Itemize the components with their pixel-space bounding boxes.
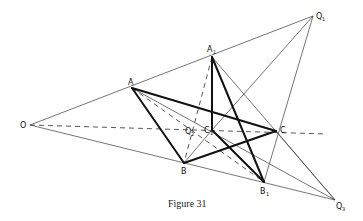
point-labels: O A A 1 Q 1 Q 2 C 1 C B B 1 Q 3: [20, 12, 345, 212]
side-AC: [132, 88, 276, 131]
label-Q2-sub: 2: [191, 131, 194, 137]
dashed-lines: [30, 57, 326, 182]
line-O-Q1: [30, 16, 313, 125]
projective-geometry-figure: O A A 1 Q 1 Q 2 C 1 C B B 1 Q 3 Figure 3…: [0, 0, 363, 221]
label-B1: B: [260, 187, 266, 196]
label-A: A: [128, 78, 134, 87]
figure-caption: Figure 31: [168, 198, 207, 209]
line-Q1-B1: [264, 16, 313, 182]
label-Q1-sub: 1: [322, 16, 325, 22]
label-Q3-sub: 3: [342, 206, 345, 212]
line-Q1-C1: [212, 16, 313, 130]
line-C-Q3: [276, 131, 335, 200]
label-O: O: [20, 121, 26, 130]
label-A1-sub: 1: [213, 49, 216, 55]
line-A-Q3: [132, 88, 335, 200]
label-B1-sub: 1: [266, 191, 269, 197]
label-B: B: [181, 167, 187, 176]
label-C1-sub: 1: [210, 130, 213, 136]
label-C: C: [280, 126, 286, 135]
